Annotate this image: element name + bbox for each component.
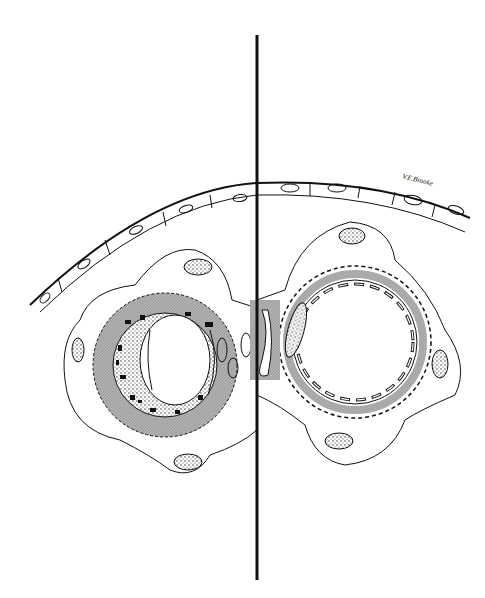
left-nucleus-side <box>72 338 84 362</box>
left-lumen <box>140 315 210 405</box>
cross-section-illustration <box>0 0 485 598</box>
left-nucleus-top <box>184 259 212 275</box>
interstitial-junction <box>250 300 280 380</box>
right-nucleus-bottom <box>325 433 353 449</box>
left-nucleus-bottom <box>174 454 202 470</box>
right-nucleus-side <box>432 350 448 378</box>
left-capillary <box>64 249 257 472</box>
right-capillary <box>257 222 461 465</box>
right-nucleus-top <box>339 228 365 244</box>
right-lumen <box>293 280 417 404</box>
